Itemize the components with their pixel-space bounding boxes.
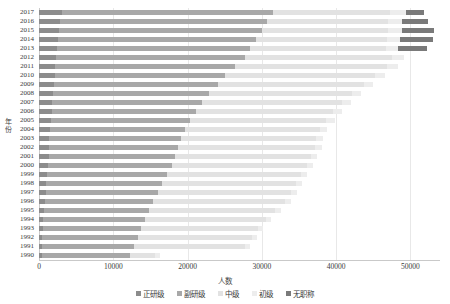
bar-segment xyxy=(52,109,196,114)
bar-segment xyxy=(190,118,326,123)
bar-segment xyxy=(311,154,318,159)
bar-row xyxy=(39,26,440,35)
bar-segment xyxy=(60,19,267,24)
y-tick-label: 2014 xyxy=(0,35,34,43)
bar-segment xyxy=(390,10,406,15)
bar-segment xyxy=(59,28,262,33)
bar-segment xyxy=(46,190,158,195)
y-tick-label: 2006 xyxy=(0,107,34,115)
bar-segment xyxy=(275,208,281,213)
bar-segment xyxy=(402,28,434,33)
bar-segment xyxy=(47,172,167,177)
bar-segment xyxy=(141,226,258,231)
bar-segment xyxy=(375,73,385,78)
bar-row xyxy=(39,44,440,53)
x-tick-label: 40000 xyxy=(306,262,366,271)
legend-label: 副研级 xyxy=(184,288,205,299)
bar-segment xyxy=(225,73,374,78)
bar-row xyxy=(39,62,440,71)
chart-legend: 正研级副研级中级初级无职称 xyxy=(0,288,450,299)
stacked-bar xyxy=(39,100,351,105)
x-axis-title: 人数 xyxy=(0,275,450,286)
bar-segment xyxy=(48,163,171,168)
y-tick-label: 2003 xyxy=(0,134,34,142)
bar-segment xyxy=(400,37,433,42)
stacked-bar xyxy=(39,55,404,60)
bar-segment xyxy=(326,118,334,123)
bar-row xyxy=(39,107,440,116)
x-tick-label: 30000 xyxy=(232,262,292,271)
y-tick-label: 1997 xyxy=(0,188,34,196)
bar-segment xyxy=(388,19,403,24)
stacked-bar xyxy=(39,163,313,168)
bar-segment xyxy=(62,10,273,15)
legend-label: 正研级 xyxy=(143,288,164,299)
stacked-bar xyxy=(39,19,428,24)
bar-segment xyxy=(39,109,52,114)
bar-segment xyxy=(42,235,138,240)
stacked-bar xyxy=(39,73,385,78)
bar-segment xyxy=(256,37,387,42)
bar-row xyxy=(39,242,440,251)
y-tick-label: 1990 xyxy=(0,251,34,259)
legend-label: 中级 xyxy=(225,288,239,299)
bar-row xyxy=(39,71,440,80)
bar-row xyxy=(39,188,440,197)
bar-segment xyxy=(43,226,142,231)
bar-segment xyxy=(262,28,388,33)
bar-segment xyxy=(402,19,427,24)
bar-segment xyxy=(315,145,322,150)
x-tick-label: 10000 xyxy=(83,262,143,271)
bar-segment xyxy=(296,181,302,186)
bar-segment xyxy=(175,154,311,159)
bar-segment xyxy=(39,100,52,105)
bar-segment xyxy=(167,172,301,177)
stacked-bar xyxy=(39,109,342,114)
bar-segment xyxy=(285,199,291,204)
y-tick-label: 2012 xyxy=(0,53,34,61)
legend-item[interactable]: 初级 xyxy=(252,288,273,299)
y-tick-label: 2015 xyxy=(0,26,34,34)
legend-swatch-icon xyxy=(136,291,141,296)
plot-area xyxy=(39,8,440,260)
bar-segment xyxy=(57,46,250,51)
bar-segment xyxy=(196,109,333,114)
bar-segment xyxy=(39,55,56,60)
legend-item[interactable]: 中级 xyxy=(218,288,239,299)
bar-segment xyxy=(202,100,342,105)
bar-row xyxy=(39,233,440,242)
y-tick-label: 1993 xyxy=(0,224,34,232)
bar-segment xyxy=(364,82,374,87)
stacked-bar xyxy=(39,28,434,33)
bar-segment xyxy=(45,199,153,204)
stacked-bar xyxy=(39,172,307,177)
bar-segment xyxy=(145,217,266,222)
bar-segment xyxy=(39,73,55,78)
bar-segment xyxy=(39,181,46,186)
stacked-bar xyxy=(39,244,250,249)
bar-row xyxy=(39,206,440,215)
bar-segment xyxy=(307,163,314,168)
bar-segment xyxy=(50,127,185,132)
bar-segment xyxy=(44,208,149,213)
stacked-bar xyxy=(39,10,424,15)
legend-swatch-icon xyxy=(252,291,257,296)
y-tick-label: 2004 xyxy=(0,125,34,133)
bar-segment xyxy=(153,199,284,204)
bar-segment xyxy=(178,145,315,150)
stacked-bar xyxy=(39,82,373,87)
legend-item[interactable]: 无职称 xyxy=(286,288,314,299)
bar-row xyxy=(39,152,440,161)
legend-swatch-icon xyxy=(218,291,223,296)
bar-segment xyxy=(245,55,391,60)
bar-segment xyxy=(266,217,271,222)
y-tick-label: 1995 xyxy=(0,206,34,214)
bar-segment xyxy=(134,244,245,249)
bar-segment xyxy=(245,244,250,249)
stacked-bar xyxy=(39,235,257,240)
legend-item[interactable]: 正研级 xyxy=(136,288,164,299)
legend-item[interactable]: 副研级 xyxy=(177,288,205,299)
y-tick-label: 2001 xyxy=(0,152,34,160)
x-tick-label: 20000 xyxy=(158,262,218,271)
bar-segment xyxy=(49,154,175,159)
